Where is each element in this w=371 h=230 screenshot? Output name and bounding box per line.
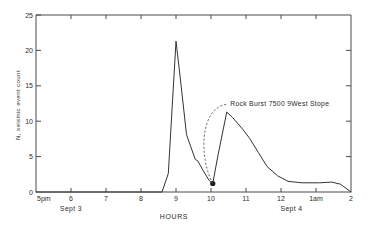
x-axis-date-label: Sept 4 (280, 205, 302, 213)
y-tick-label: 10 (25, 118, 33, 125)
x-tick-label: 1am (309, 195, 323, 202)
y-tick-label: 25 (25, 12, 33, 19)
x-axis-date-label: Sept 3 (60, 205, 82, 213)
x-tick-label: 10 (207, 195, 215, 202)
x-tick-label: 11 (242, 195, 249, 202)
x-tick-label: 6 (69, 195, 73, 202)
annotation-label: Rock Burst 7500 9West Stope (230, 100, 329, 108)
y-axis-title: N, seismic event count (14, 70, 21, 140)
x-tick-label: 8 (139, 195, 143, 202)
chart-canvas: 5pm67891011121am2 0510152025 Sept 3Sept … (0, 0, 371, 230)
seismic-event-chart: 5pm67891011121am2 0510152025 Sept 3Sept … (0, 0, 371, 230)
x-tick-label: 9 (174, 195, 178, 202)
rock-burst-marker (210, 181, 215, 186)
x-tick-label: 12 (277, 195, 285, 202)
x-tick-label: 2 (349, 195, 353, 202)
y-tick-label: 5 (29, 153, 33, 160)
x-tick-label: 5pm (37, 195, 51, 203)
x-tick-label: 7 (104, 195, 108, 202)
y-tick-label: 0 (29, 189, 33, 196)
y-tick-label: 20 (25, 47, 33, 54)
x-axis-title: HOURS (160, 213, 188, 220)
y-tick-label: 15 (25, 82, 33, 89)
